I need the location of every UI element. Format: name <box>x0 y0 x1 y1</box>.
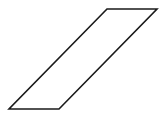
parallelogram-shape <box>9 9 157 109</box>
diagram-canvas <box>0 0 168 121</box>
